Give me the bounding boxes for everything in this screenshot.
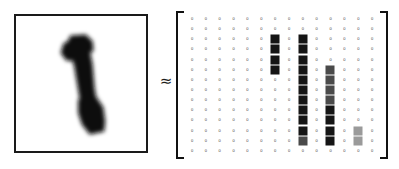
matrix-cell-value: 0 bbox=[316, 68, 318, 72]
matrix-cell: 189 bbox=[324, 85, 338, 95]
matrix-cell-value: 0 bbox=[191, 37, 193, 41]
matrix-cell-value: 246 bbox=[327, 129, 333, 133]
matrix-cell: 0 bbox=[351, 146, 365, 156]
matrix-cell-value: 0 bbox=[260, 17, 262, 21]
matrix-cell-value: 0 bbox=[191, 58, 193, 62]
matrix-cell: 0 bbox=[310, 14, 324, 24]
matrix-cell-value: 0 bbox=[329, 149, 331, 153]
matrix-cell: 0 bbox=[351, 115, 365, 125]
matrix-cell-value: 0 bbox=[357, 98, 359, 102]
matrix-cell: 0 bbox=[324, 34, 338, 44]
matrix-cell: 0 bbox=[310, 95, 324, 105]
matrix-cell-value: 0 bbox=[219, 27, 221, 31]
matrix-cell: 166 bbox=[268, 34, 282, 44]
matrix-cell: 0 bbox=[337, 146, 351, 156]
matrix-cell-value: 0 bbox=[302, 17, 304, 21]
matrix-cell-value: 229 bbox=[272, 58, 278, 62]
matrix-cell-value: 0 bbox=[219, 68, 221, 72]
matrix-cell: 0 bbox=[268, 126, 282, 136]
matrix-cell: 0 bbox=[268, 85, 282, 95]
matrix-cell: 0 bbox=[254, 14, 268, 24]
matrix-cell: 0 bbox=[268, 24, 282, 34]
matrix-cell-value: 0 bbox=[274, 98, 276, 102]
matrix-cell-value: 0 bbox=[316, 149, 318, 153]
matrix-cell-value: 0 bbox=[232, 37, 234, 41]
matrix-cell-value: 0 bbox=[246, 78, 248, 82]
matrix-cell-value: 0 bbox=[357, 68, 359, 72]
matrix-cell: 0 bbox=[213, 126, 227, 136]
matrix-cell-value: 0 bbox=[260, 98, 262, 102]
matrix-cell-value: 0 bbox=[357, 88, 359, 92]
matrix-cell: 0 bbox=[324, 14, 338, 24]
matrix-cell: 0 bbox=[199, 126, 213, 136]
matrix-cell: 0 bbox=[213, 136, 227, 146]
matrix-cell: 113 bbox=[296, 136, 310, 146]
matrix-cell: 0 bbox=[310, 65, 324, 75]
matrix-cell: 0 bbox=[365, 136, 379, 146]
matrix-cell-value: 0 bbox=[316, 58, 318, 62]
matrix-cell: 0 bbox=[365, 75, 379, 85]
matrix-cell-value: 0 bbox=[371, 78, 373, 82]
matrix-cell: 0 bbox=[282, 44, 296, 54]
matrix-cell: 0 bbox=[268, 136, 282, 146]
matrix-cell-value: 143 bbox=[327, 98, 333, 102]
handwritten-digit-image bbox=[16, 16, 146, 151]
matrix-cell: 252 bbox=[296, 55, 310, 65]
matrix-cell: 218 bbox=[324, 105, 338, 115]
matrix-cell: 0 bbox=[351, 55, 365, 65]
matrix-cell: 0 bbox=[268, 115, 282, 125]
matrix-cell-value: 0 bbox=[205, 108, 207, 112]
matrix-cell: 0 bbox=[185, 14, 199, 24]
matrix-cell: 0 bbox=[185, 136, 199, 146]
matrix-cell: 0 bbox=[254, 65, 268, 75]
matrix-cell: 0 bbox=[337, 44, 351, 54]
matrix-cell-value: 0 bbox=[232, 108, 234, 112]
matrix-cell-value: 0 bbox=[343, 58, 345, 62]
matrix-cell-value: 0 bbox=[357, 118, 359, 122]
matrix-cell: 0 bbox=[324, 146, 338, 156]
matrix-cell: 0 bbox=[365, 55, 379, 65]
matrix-cell-value: 0 bbox=[232, 17, 234, 21]
matrix-cell: 0 bbox=[351, 24, 365, 34]
matrix-cell-value: 0 bbox=[329, 47, 331, 51]
matrix-cell: 0 bbox=[227, 95, 241, 105]
matrix-cell: 254 bbox=[296, 115, 310, 125]
matrix-cell: 0 bbox=[185, 75, 199, 85]
matrix-cell-value: 0 bbox=[246, 149, 248, 153]
matrix-cell: 214 bbox=[268, 44, 282, 54]
matrix-cell: 0 bbox=[365, 146, 379, 156]
matrix-cell-value: 241 bbox=[300, 37, 306, 41]
matrix-cell-value: 0 bbox=[260, 129, 262, 133]
matrix-cell: 0 bbox=[337, 34, 351, 44]
matrix-cell: 0 bbox=[240, 126, 254, 136]
matrix-cell-value: 0 bbox=[219, 78, 221, 82]
matrix-cell: 0 bbox=[254, 75, 268, 85]
matrix-cell: 0 bbox=[185, 115, 199, 125]
matrix-cell-value: 0 bbox=[260, 118, 262, 122]
matrix-cell-value: 0 bbox=[316, 118, 318, 122]
matrix-cell: 0 bbox=[213, 55, 227, 65]
matrix-cell: 0 bbox=[213, 146, 227, 156]
matrix-cell-value: 0 bbox=[316, 139, 318, 143]
matrix-cell: 0 bbox=[254, 126, 268, 136]
matrix-cell: 0 bbox=[185, 105, 199, 115]
matrix-cell-value: 0 bbox=[343, 17, 345, 21]
matrix-cell-value: 0 bbox=[232, 139, 234, 143]
matrix-cell: 0 bbox=[351, 44, 365, 54]
matrix-cell-value: 0 bbox=[246, 37, 248, 41]
matrix-cell-value: 0 bbox=[343, 78, 345, 82]
matrix-cell-value: 0 bbox=[343, 129, 345, 133]
matrix-cell-value: 0 bbox=[288, 27, 290, 31]
matrix-cell: 0 bbox=[351, 34, 365, 44]
matrix-cell: 0 bbox=[351, 85, 365, 95]
matrix-cell: 0 bbox=[227, 34, 241, 44]
matrix-cell-value: 0 bbox=[219, 47, 221, 51]
matrix-cell: 0 bbox=[296, 146, 310, 156]
matrix-cell: 0 bbox=[227, 85, 241, 95]
matrix-cell-value: 0 bbox=[260, 68, 262, 72]
matrix-cell-value: 0 bbox=[219, 139, 221, 143]
matrix-cell-value: 0 bbox=[316, 88, 318, 92]
matrix-cell-value: 0 bbox=[191, 17, 193, 21]
matrix-cell-value: 0 bbox=[357, 58, 359, 62]
matrix-cell: 0 bbox=[185, 146, 199, 156]
